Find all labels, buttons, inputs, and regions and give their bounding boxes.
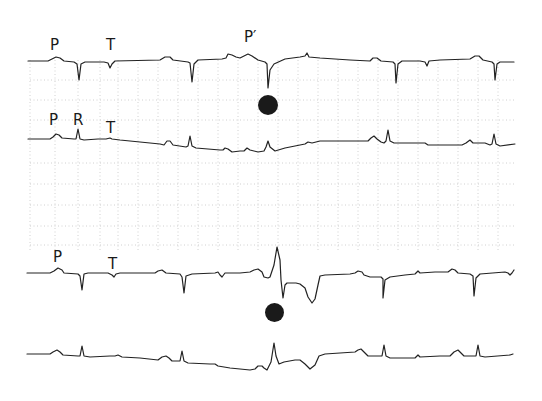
wave-label-t-strip-1: T xyxy=(106,38,115,53)
wave-label-p-prime-strip-1: P′ xyxy=(244,30,256,45)
wave-label-p-strip-1: P xyxy=(50,38,59,53)
ecg-tracing-canvas xyxy=(0,0,542,401)
ecg-trace-strip-3 xyxy=(27,247,514,303)
ecg-trace-strip-4 xyxy=(27,343,513,370)
wave-label-r-strip-2: R xyxy=(73,113,83,128)
ecg-trace-strip-2 xyxy=(28,129,515,152)
ecg-trace-strip-1 xyxy=(28,53,514,88)
ecg-grid xyxy=(30,60,515,250)
wave-label-p-strip-3: P xyxy=(53,250,62,265)
premature-beat-marker-bottom xyxy=(265,303,284,322)
premature-beat-marker-top xyxy=(258,95,278,115)
wave-label-t-strip-3: T xyxy=(108,257,117,272)
wave-label-p-strip-2: P xyxy=(49,113,58,128)
wave-label-t-strip-2: T xyxy=(106,121,115,136)
ecg-figure: P T P′ P R T P T xyxy=(0,0,542,401)
